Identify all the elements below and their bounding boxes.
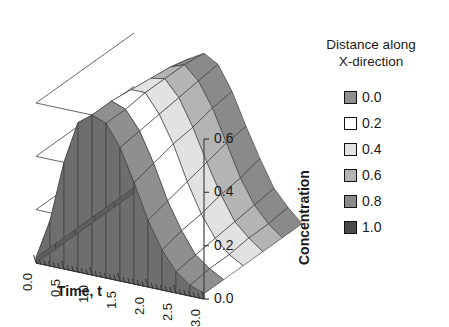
legend: Distance along X-direction 0.00.20.40.60… (296, 36, 446, 240)
x-axis-tick-label: 0.0 (20, 273, 35, 291)
legend-swatch (344, 143, 357, 156)
legend-label: 0.8 (362, 193, 381, 209)
legend-label: 0.4 (362, 141, 381, 157)
legend-label: 0.6 (362, 167, 381, 183)
y-axis-tick-label: 0.0 (214, 290, 233, 306)
legend-swatch (344, 195, 357, 208)
legend-item[interactable]: 0.2 (344, 110, 446, 136)
y-axis-tick-label: 0.4 (214, 183, 233, 199)
x-axis-tick-label: 3.0 (188, 309, 203, 327)
x-axis-tick-label: 1.0 (76, 285, 91, 303)
y-axis-tick-label: 0.6 (214, 130, 233, 146)
x-axis-tick-label: 2.5 (160, 303, 175, 321)
legend-swatch (344, 169, 357, 182)
x-axis-tick-label: 1.5 (104, 291, 119, 309)
legend-swatch (344, 221, 357, 234)
legend-swatch (344, 91, 357, 104)
x-axis-tick-label: 0.5 (48, 279, 63, 297)
chart-root: Time, t Concentration 0.00.20.40.6 0.00.… (0, 0, 449, 327)
legend-item[interactable]: 0.6 (344, 162, 446, 188)
y-axis-tick-label: 0.2 (214, 237, 233, 253)
legend-title-line-1: Distance along (296, 36, 446, 53)
legend-items: 0.00.20.40.60.81.0 (296, 84, 446, 240)
legend-item[interactable]: 0.4 (344, 136, 446, 162)
legend-item[interactable]: 0.0 (344, 84, 446, 110)
legend-swatch (344, 117, 357, 130)
x-axis-tick-label: 2.0 (132, 297, 147, 315)
legend-label: 0.2 (362, 115, 381, 131)
legend-item[interactable]: 0.8 (344, 188, 446, 214)
x-axis-tick (34, 255, 36, 263)
legend-label: 0.0 (362, 89, 381, 105)
legend-item[interactable]: 1.0 (344, 214, 446, 240)
legend-title-line-2: X-direction (296, 53, 446, 70)
legend-label: 1.0 (362, 219, 381, 235)
